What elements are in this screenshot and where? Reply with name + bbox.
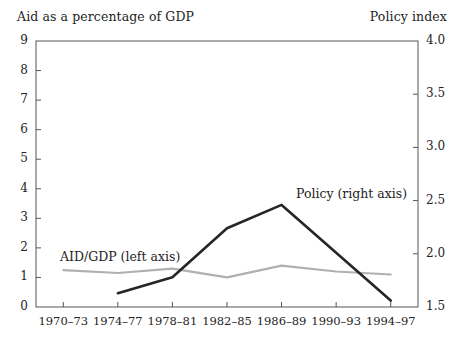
chart-figure: Aid as a percentage of GDP Policy index … — [0, 0, 458, 346]
right-axis-tick-label: 2.0 — [426, 246, 458, 260]
left-axis-tick-label: 7 — [6, 92, 28, 106]
left-axis-tick-label: 0 — [6, 299, 28, 313]
left-axis-tick-label: 8 — [6, 63, 28, 77]
left-axis-tick-label: 4 — [6, 181, 28, 195]
right-axis-tick-label: 1.5 — [426, 299, 458, 313]
right-axis-tick-label: 3.5 — [426, 86, 458, 100]
right-axis-ticks — [413, 94, 418, 254]
right-axis-tick-label: 2.5 — [426, 193, 458, 207]
series-label-aid-gdp: AID/GDP (left axis) — [60, 249, 180, 264]
left-axis-ticks — [36, 71, 41, 278]
left-axis-tick-label: 1 — [6, 269, 28, 283]
right-axis-tick-label: 4.0 — [426, 33, 458, 47]
series-line-aid-gdp — [63, 266, 390, 278]
x-axis-tick-label: 1994–97 — [356, 314, 426, 328]
series-label-policy: Policy (right axis) — [296, 186, 407, 201]
x-axis-ticks — [63, 302, 390, 307]
left-axis-tick-label: 6 — [6, 122, 28, 136]
plot-frame — [36, 41, 418, 307]
left-axis-tick-label: 5 — [6, 151, 28, 165]
right-axis-tick-label: 3.0 — [426, 139, 458, 153]
left-axis-tick-label: 9 — [6, 33, 28, 47]
left-axis-tick-label: 2 — [6, 240, 28, 254]
left-axis-tick-label: 3 — [6, 210, 28, 224]
chart-plot-area — [0, 0, 458, 346]
